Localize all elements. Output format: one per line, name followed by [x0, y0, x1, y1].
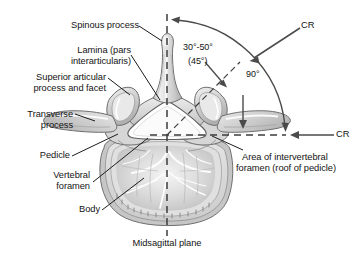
- label-right-angle: 90°: [246, 69, 259, 80]
- label-cr-upper: CR: [301, 20, 314, 31]
- spinous-tip-highlight: [163, 36, 169, 47]
- label-pedicle: Pedicle: [0, 150, 70, 161]
- label-transverse-process-line2: process: [0, 120, 73, 131]
- transverse-process-right: [217, 111, 290, 133]
- label-area-ivf-line1: Area of intervertebral: [242, 152, 328, 163]
- label-area-ivf-line2: foramen (roof of pedicle): [236, 163, 336, 174]
- cr-lower-arrow: [290, 131, 334, 139]
- vertebra-diagram: Spinous process Lamina (pars interarticu…: [0, 0, 364, 263]
- leader-spinous-process: [139, 26, 162, 41]
- cr-upper-arrow: [250, 28, 301, 64]
- label-oblique-angle-range: 30°-50°: [183, 42, 213, 53]
- oblique-angle-arrow: [205, 62, 227, 88]
- label-vertebral-foramen-line1: Vertebral: [0, 170, 90, 181]
- transverse-process-right-group: [217, 111, 290, 133]
- label-transverse-process-line1: Transverse: [0, 109, 73, 120]
- label-superior-articular-line1: Superior articular: [0, 72, 106, 83]
- label-spinous-process: Spinous process: [0, 20, 139, 31]
- label-body: Body: [0, 204, 100, 215]
- label-superior-articular-line2: process and facet: [0, 83, 106, 94]
- arc-arrowhead-top: [171, 17, 180, 24]
- label-lamina-line1: Lamina (pars: [0, 45, 131, 56]
- label-vertebral-foramen-line2: foramen: [0, 181, 90, 192]
- label-cr-lower: CR: [336, 129, 349, 140]
- vertebra-illustration: [0, 0, 364, 263]
- label-midsagittal-plane: Midsagittal plane: [97, 238, 237, 249]
- label-oblique-angle-typical: (45°): [188, 56, 207, 67]
- label-lamina-line2: interarticularis): [0, 56, 131, 67]
